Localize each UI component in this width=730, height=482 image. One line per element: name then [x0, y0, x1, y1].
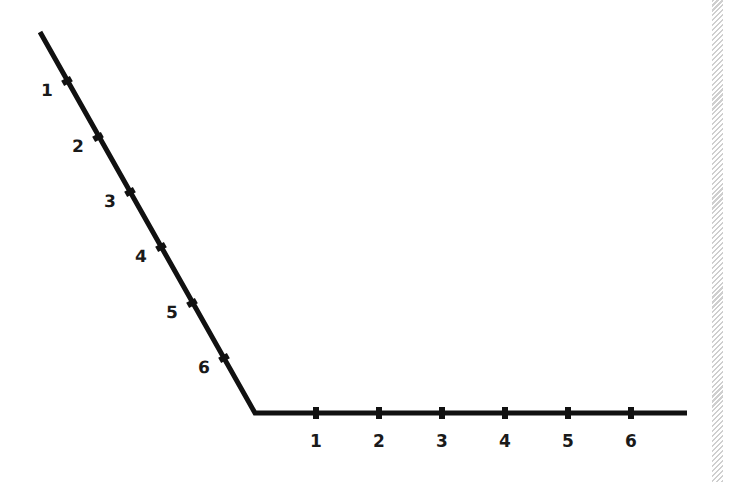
tick-label: 1: [41, 80, 53, 100]
tick-label: 2: [72, 136, 84, 156]
tick-label: 3: [104, 191, 116, 211]
tick-mark: [376, 407, 382, 419]
hatched-edge-strip: [712, 0, 723, 482]
tick-mark: [313, 407, 319, 419]
angle-number-lines-diagram: 123456 123456: [0, 0, 730, 482]
tick-label: 5: [562, 431, 574, 451]
slanted-axis-ticks: 123456: [41, 79, 228, 378]
tick-label: 4: [499, 431, 511, 451]
slanted-tick-4: 4: [135, 245, 165, 267]
slanted-tick-5: 5: [166, 301, 196, 323]
slanted-tick-2: 2: [72, 135, 102, 157]
tick-mark: [63, 79, 72, 84]
tick-label: 6: [625, 431, 637, 451]
slanted-tick-6: 6: [198, 356, 228, 378]
tick-label: 2: [373, 431, 385, 451]
tick-mark: [439, 407, 445, 419]
axes: [40, 32, 687, 413]
tick-label: 4: [135, 246, 147, 266]
tick-mark: [565, 407, 571, 419]
diagram-canvas: 123456 123456: [0, 0, 730, 482]
axis-lines: [40, 32, 687, 413]
tick-mark: [126, 190, 135, 195]
tick-mark: [157, 245, 166, 250]
tick-label: 3: [436, 431, 448, 451]
tick-mark: [628, 407, 634, 419]
tick-mark: [188, 301, 197, 306]
tick-mark: [502, 407, 508, 419]
tick-mark: [94, 135, 103, 140]
tick-label: 1: [310, 431, 322, 451]
tick-label: 5: [166, 302, 178, 322]
slanted-tick-3: 3: [104, 190, 134, 212]
slanted-tick-1: 1: [41, 79, 71, 101]
tick-label: 6: [198, 357, 210, 377]
tick-mark: [220, 356, 229, 361]
